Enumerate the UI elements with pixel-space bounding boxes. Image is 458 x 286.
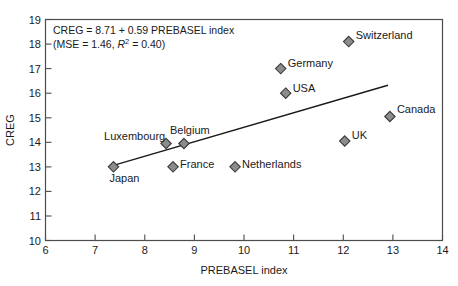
x-tick-label: 10 (238, 244, 250, 256)
data-point-marker[interactable] (230, 162, 240, 172)
data-point[interactable]: France (168, 158, 214, 172)
data-point[interactable]: UK (340, 129, 368, 146)
y-tick-label: 11 (30, 210, 41, 222)
data-point-label: Belgium (170, 124, 210, 136)
y-tick-label: 14 (29, 136, 41, 148)
data-point-marker[interactable] (108, 162, 118, 172)
x-tick-label: 14 (436, 244, 448, 256)
data-point[interactable]: Switzerland (344, 29, 413, 47)
y-tick-label: 19 (29, 14, 41, 26)
data-point-label: Japan (109, 172, 139, 184)
data-point-label: USA (293, 82, 316, 94)
data-point[interactable]: Belgium (170, 124, 210, 149)
y-axis-tick-labels: 19 18 17 16 15 14 13 12 11 10 (29, 14, 41, 247)
annotation-line-1: CREG = 8.71 + 0.59 PREBASEL index (53, 24, 235, 36)
data-point-marker[interactable] (168, 162, 178, 172)
annotation-line-2: (MSE = 1.46, R2 = 0.40) (53, 37, 165, 50)
y-axis-title: CREG (4, 114, 16, 146)
regression-line-group (113, 85, 387, 165)
data-point-marker[interactable] (344, 36, 354, 46)
x-tick-label: 8 (142, 244, 148, 256)
data-point-marker[interactable] (340, 136, 350, 146)
regression-line (113, 85, 387, 165)
y-tick-label: 17 (29, 63, 41, 75)
data-point-label: Canada (397, 103, 436, 115)
annotation-mse: (MSE = 1.46, (53, 38, 118, 50)
data-point[interactable]: Germany (276, 57, 334, 74)
regression-annotation: CREG = 8.71 + 0.59 PREBASEL index (MSE =… (53, 24, 235, 50)
y-tick-label: 16 (29, 87, 41, 99)
y-tick-label: 10 (29, 235, 41, 247)
x-tick-label: 13 (387, 244, 399, 256)
data-point-label: France (180, 158, 214, 170)
data-point-label: Switzerland (356, 29, 413, 41)
x-axis-ticks (46, 235, 443, 241)
data-point[interactable]: Canada (385, 103, 437, 121)
chart-svg: 19 18 17 16 15 14 13 12 11 10 6 7 (0, 0, 458, 286)
y-tick-label: 15 (29, 112, 41, 124)
data-points-layer: JapanLuxembourgBelgiumFranceNetherlandsG… (104, 29, 436, 184)
data-point[interactable]: Netherlands (230, 158, 302, 172)
data-point-marker[interactable] (385, 111, 395, 121)
x-axis-title: PREBASEL index (200, 264, 288, 276)
data-point-marker[interactable] (280, 88, 290, 98)
y-tick-label: 13 (29, 161, 41, 173)
annotation-r-value: = 0.40) (129, 38, 165, 50)
x-tick-label: 11 (288, 244, 299, 256)
data-point-marker[interactable] (179, 138, 189, 148)
scatter-chart-figure: 19 18 17 16 15 14 13 12 11 10 6 7 (0, 0, 458, 286)
x-tick-label: 9 (191, 244, 197, 256)
y-tick-label: 18 (29, 38, 41, 50)
data-point[interactable]: Luxembourg (104, 130, 171, 149)
x-tick-label: 12 (337, 244, 349, 256)
data-point[interactable]: Japan (108, 162, 139, 184)
x-tick-label: 7 (92, 244, 98, 256)
data-point-label: Luxembourg (104, 130, 165, 142)
x-tick-label: 6 (42, 244, 48, 256)
data-point-label: Netherlands (242, 158, 302, 170)
data-point-label: UK (352, 129, 368, 141)
data-point-marker[interactable] (276, 63, 286, 73)
y-tick-label: 12 (29, 185, 41, 197)
y-axis-ticks (46, 20, 52, 241)
data-point-label: Germany (288, 57, 334, 69)
x-axis-tick-labels: 6 7 8 9 10 11 12 13 14 (42, 244, 448, 256)
data-point[interactable]: USA (280, 82, 315, 98)
